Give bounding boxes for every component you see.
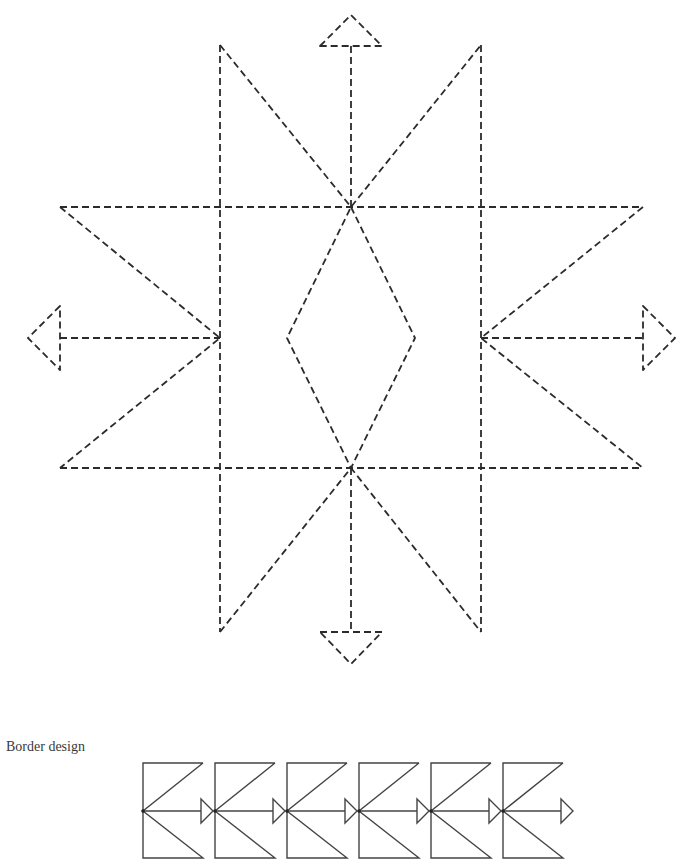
border-unit [429,763,501,858]
border-design-caption: Border design [6,739,85,755]
arrowhead-icon [345,799,357,823]
arrowhead-icon [561,799,573,823]
center-diamond [287,207,415,468]
arrow-up-icon [320,15,382,207]
border-unit [285,763,357,858]
arrow-down-icon [320,468,382,664]
arrowhead-icon [417,799,429,823]
border-unit [141,763,213,858]
border-unit [213,763,285,858]
border-design [141,763,573,858]
border-unit [501,763,573,858]
border-unit [357,763,429,858]
arrowhead-icon [489,799,501,823]
arrowhead-icon [273,799,285,823]
star-pattern [28,15,675,664]
arrowhead-icon [201,799,213,823]
pattern-canvas [0,0,685,866]
